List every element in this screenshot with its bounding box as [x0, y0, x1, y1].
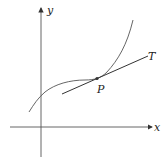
tangent-line — [62, 56, 148, 94]
point-p — [95, 77, 98, 80]
tangent-label: T — [148, 50, 157, 63]
x-axis-label: x — [154, 121, 161, 134]
tangent-line-diagram: y x P T — [0, 0, 167, 160]
y-axis-label: y — [46, 4, 54, 17]
function-curve — [29, 20, 133, 112]
point-label: P — [96, 83, 105, 96]
